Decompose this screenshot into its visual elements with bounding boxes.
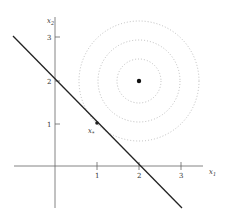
y-tick-label-2: 2 [47,78,51,86]
center-point [137,79,141,83]
y-tick-label-3: 3 [47,34,51,42]
y-axis-label: x2 [47,17,54,26]
solution-label: x* [88,127,95,136]
y-tick-label-1: 1 [47,121,51,129]
diagram-canvas: 1 2 3 1 2 3 x2 x1 x* [0,0,228,224]
x-tick-label-3: 3 [179,172,183,180]
axes [14,17,203,208]
x-tick-label-1: 1 [95,172,99,180]
x-tick-label-2: 2 [137,172,141,180]
solution-point [95,121,99,125]
x-axis-label: x1 [209,168,216,177]
